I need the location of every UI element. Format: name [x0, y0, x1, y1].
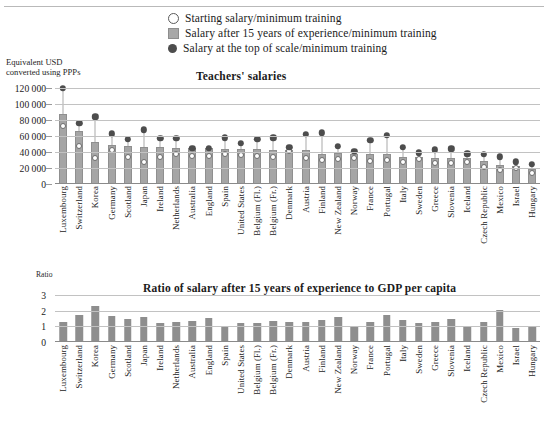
- bottom-chart-title: Ratio of salary after 15 years of experi…: [143, 282, 456, 294]
- bottom-chart-y-axis-label: Ratio: [36, 270, 52, 279]
- starting-salary-marker: [270, 154, 276, 160]
- x-tick-label-cell: Spain: [217, 186, 233, 248]
- x-tick-label: New Zealand: [333, 345, 343, 394]
- x-tick-label-cell: Czech Republic: [475, 186, 491, 248]
- x-tick-label-cell: Italy: [395, 345, 411, 407]
- y-tick-label: 1: [41, 321, 46, 332]
- bottom-chart-y-ticks: 0123: [0, 295, 52, 342]
- starting-salary-marker: [464, 159, 470, 165]
- bottom-chart-x-tick-labels: LuxembourgSwitzerlandKoreaGermanyScotlan…: [55, 345, 540, 407]
- x-tick-label-cell: Scotland: [120, 186, 136, 248]
- top-of-scale-marker: [513, 158, 519, 164]
- y-tick-mark: [46, 88, 52, 89]
- x-tick-label: Belgium (Fl.): [252, 345, 262, 395]
- x-tick-label-cell: Switzerland: [71, 186, 87, 248]
- x-tick-label-cell: United States: [233, 186, 249, 248]
- bottom-chart-column: [330, 295, 346, 342]
- y-tick-label: 2: [41, 305, 46, 316]
- x-tick-label: Japan: [139, 345, 149, 366]
- bottom-chart-column: [314, 295, 330, 342]
- gridline: [55, 311, 540, 312]
- x-tick-label: Australia: [187, 186, 197, 219]
- x-tick-label-cell: Germany: [104, 186, 120, 248]
- ratio-bar: [302, 322, 310, 342]
- bottom-chart-column: [459, 295, 475, 342]
- x-tick-label-cell: Australia: [184, 345, 200, 407]
- x-tick-label: Spain: [220, 186, 230, 207]
- ratio-bar: [334, 317, 342, 342]
- bottom-chart-column: [233, 295, 249, 342]
- x-tick-label: Scotland: [123, 345, 133, 377]
- x-tick-label: Japan: [139, 186, 149, 207]
- x-tick-label: Slovenia: [446, 186, 456, 218]
- x-tick-label: Belgium (Fr.): [268, 345, 278, 395]
- starting-salary-marker: [60, 123, 66, 129]
- x-tick-label: Luxembourg: [58, 345, 68, 392]
- gridline: [55, 120, 540, 121]
- bottom-chart-column: [152, 295, 168, 342]
- x-tick-label-cell: Austria: [298, 345, 314, 407]
- bottom-chart-column: [508, 295, 524, 342]
- x-tick-label: Australia: [187, 345, 197, 378]
- ratio-bar: [286, 322, 294, 342]
- x-tick-label: Ireland: [155, 186, 165, 212]
- x-tick-label-cell: Ireland: [152, 345, 168, 407]
- y-tick-label: 0: [41, 337, 46, 348]
- x-tick-label: Slovenia: [446, 345, 456, 377]
- bottom-chart-column: [395, 295, 411, 342]
- x-tick-label: Israel: [511, 345, 521, 365]
- x-tick-label-cell: Greece: [427, 345, 443, 407]
- legend-item-label: Salary at the top of scale/minimum train…: [183, 42, 387, 54]
- x-tick-label-cell: Czech Republic: [475, 345, 491, 407]
- x-tick-label: United States: [236, 186, 246, 235]
- ratio-bar: [140, 317, 148, 342]
- legend-item: Salary at the top of scale/minimum train…: [168, 42, 437, 54]
- bottom-chart-column: [120, 295, 136, 342]
- top-of-scale-marker: [238, 140, 244, 146]
- open-circle-marker-icon: [168, 13, 179, 24]
- x-tick-label-cell: Austria: [298, 186, 314, 248]
- starting-salary-marker: [335, 156, 341, 162]
- x-tick-label-cell: Australia: [184, 186, 200, 248]
- gridline: [55, 152, 540, 153]
- x-tick-label: Mexico: [495, 186, 505, 214]
- x-axis-line: [55, 341, 540, 342]
- gridline: [55, 88, 540, 89]
- y-tick-mark: [46, 120, 52, 121]
- x-tick-label: Germany: [107, 345, 117, 379]
- bottom-chart-column: [104, 295, 120, 342]
- x-tick-label: Switzerland: [74, 186, 84, 230]
- x-tick-label-cell: Finland: [314, 345, 330, 407]
- x-tick-label: Sweden: [414, 345, 424, 374]
- starting-salary-marker: [432, 160, 438, 166]
- x-tick-label: Iceland: [462, 345, 472, 372]
- x-tick-label: Italy: [398, 186, 408, 203]
- top-of-scale-stem: [63, 88, 64, 114]
- starting-salary-marker: [206, 153, 212, 159]
- legend-item: Salary after 15 years of experience/mini…: [168, 27, 437, 39]
- x-tick-label: Luxembourg: [58, 186, 68, 233]
- ratio-bar: [431, 322, 439, 342]
- legend-item-label: Starting salary/minimum training: [185, 12, 342, 24]
- x-tick-label: Mexico: [495, 345, 505, 373]
- ratio-bar: [447, 319, 455, 342]
- x-tick-label-cell: Sweden: [411, 186, 427, 248]
- x-tick-label: Norway: [349, 345, 359, 374]
- x-tick-label: Switzerland: [74, 345, 84, 389]
- ratio-bar: [399, 320, 407, 342]
- x-tick-label-cell: Germany: [104, 345, 120, 407]
- bottom-chart-column: [184, 295, 200, 342]
- x-tick-label: Israel: [511, 186, 521, 206]
- starting-salary-marker: [254, 153, 260, 159]
- x-tick-label: Greece: [430, 186, 440, 212]
- x-tick-label: Italy: [398, 345, 408, 362]
- x-tick-label-cell: Hungary: [524, 345, 540, 407]
- top-chart-y-axis-label: Equivalent USD converted using PPPs: [6, 58, 80, 77]
- page-top-rule: [4, 6, 544, 7]
- bottom-chart-column: [524, 295, 540, 342]
- ratio-bar: [528, 326, 536, 342]
- x-tick-label-cell: Slovenia: [443, 345, 459, 407]
- x-tick-label-cell: Mexico: [492, 345, 508, 407]
- ratio-bar: [512, 328, 520, 342]
- x-tick-label: Belgium (Fr.): [268, 186, 278, 236]
